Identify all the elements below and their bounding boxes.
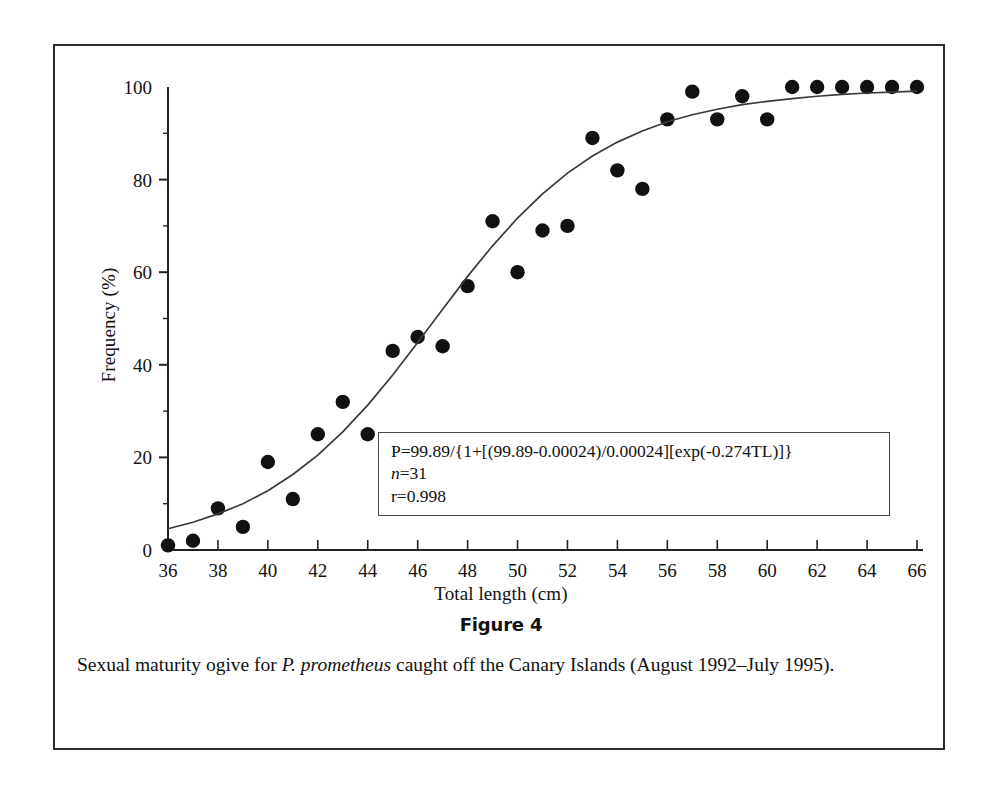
n-value: =31	[400, 463, 427, 483]
data-point	[386, 344, 400, 358]
x-axis-tick-label: 50	[508, 560, 527, 581]
scatter-plot: 0204060801003638404244464850525456586062…	[55, 46, 947, 606]
n-symbol: n	[391, 463, 400, 483]
y-axis-tick-label: 80	[133, 170, 152, 191]
plot-region: 0204060801003638404244464850525456586062…	[55, 46, 947, 606]
x-axis-tick-label: 46	[408, 560, 427, 581]
data-point	[760, 112, 774, 126]
data-point	[485, 214, 499, 228]
data-point	[311, 427, 325, 441]
x-axis-tick-label: 58	[708, 560, 727, 581]
x-axis-tick-label: 56	[658, 560, 677, 581]
data-point	[710, 112, 724, 126]
figure-frame: 0204060801003638404244464850525456586062…	[53, 44, 945, 750]
x-axis-tick-label: 44	[358, 560, 378, 581]
data-point	[336, 395, 350, 409]
data-point	[186, 534, 200, 548]
sample-size-line: n=31	[391, 462, 879, 484]
data-point	[236, 520, 250, 534]
data-point	[361, 427, 375, 441]
figure-caption: Sexual maturity ogive for P. prometheus …	[77, 651, 925, 679]
data-point	[735, 89, 749, 103]
data-point	[535, 223, 549, 237]
x-axis-tick-label: 66	[908, 560, 927, 581]
y-axis-tick-label: 20	[133, 447, 152, 468]
y-axis-title: Frequency (%)	[98, 225, 120, 425]
data-point	[435, 339, 449, 353]
data-point	[510, 265, 524, 279]
correlation-line: r=0.998	[391, 485, 879, 507]
equation-line: P=99.89/{1+[(99.89-0.00024)/0.00024][exp…	[391, 440, 879, 462]
data-point	[286, 492, 300, 506]
data-point	[460, 279, 474, 293]
x-axis-tick-label: 54	[608, 560, 628, 581]
x-axis-title: Total length (cm)	[55, 583, 947, 605]
data-point	[685, 84, 699, 98]
x-axis-tick-label: 38	[208, 560, 227, 581]
caption-suffix: caught off the Canary Islands (August 19…	[391, 654, 834, 675]
data-point	[261, 455, 275, 469]
x-axis-tick-label: 64	[858, 560, 878, 581]
caption-species-name: P. prometheus	[282, 654, 391, 675]
data-point	[635, 182, 649, 196]
x-axis-tick-label: 48	[458, 560, 477, 581]
y-axis-tick-label: 60	[133, 262, 152, 283]
data-point	[161, 538, 175, 552]
data-point	[785, 80, 799, 94]
data-point	[810, 80, 824, 94]
y-axis-tick-label: 100	[124, 77, 153, 98]
x-axis-tick-label: 40	[258, 560, 277, 581]
data-point	[585, 131, 599, 145]
caption-prefix: Sexual maturity ogive for	[77, 654, 282, 675]
y-axis-tick-label: 40	[133, 355, 152, 376]
x-axis-tick-label: 62	[808, 560, 827, 581]
x-axis-tick-label: 60	[758, 560, 777, 581]
figure-heading: Figure 4	[77, 614, 925, 635]
x-axis-tick-label: 52	[558, 560, 577, 581]
x-axis-tick-label: 42	[308, 560, 327, 581]
y-axis-tick-label: 0	[143, 540, 153, 561]
data-point	[610, 163, 624, 177]
equation-annotation-box: P=99.89/{1+[(99.89-0.00024)/0.00024][exp…	[378, 432, 890, 516]
data-point	[835, 80, 849, 94]
data-point	[560, 219, 574, 233]
caption-block: Figure 4 Sexual maturity ogive for P. pr…	[55, 614, 947, 679]
x-axis-tick-label: 36	[159, 560, 178, 581]
